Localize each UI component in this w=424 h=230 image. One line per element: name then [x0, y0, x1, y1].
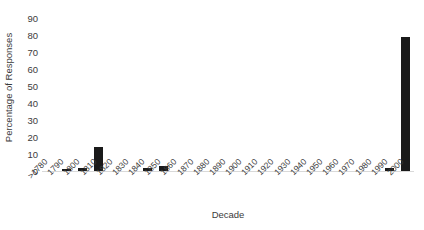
x-axis-title: Decade — [42, 209, 414, 221]
x-tick-slot: 2000 — [398, 173, 414, 209]
bar-slot — [58, 18, 74, 171]
bar-slot — [91, 18, 107, 171]
y-axis-tick-labels: 0102030405060708090 — [14, 11, 38, 171]
bar-chart-figure: Percentage of Responses 0102030405060708… — [0, 0, 424, 230]
y-tick-label: 10 — [14, 149, 38, 160]
y-tick-label: 40 — [14, 98, 38, 109]
bar-slot — [236, 18, 252, 171]
bar-slot — [317, 18, 333, 171]
bar-slot — [42, 18, 58, 171]
bar-slot — [285, 18, 301, 171]
bar-slot — [268, 18, 284, 171]
bar-slot — [333, 18, 349, 171]
bar-slot — [252, 18, 268, 171]
bar-slot — [349, 18, 365, 171]
bar-slot — [365, 18, 381, 171]
bar-slot — [188, 18, 204, 171]
bar-slot — [171, 18, 187, 171]
bar-slot — [204, 18, 220, 171]
bars-layer — [42, 18, 414, 171]
plot-area — [42, 18, 414, 171]
bar — [401, 37, 410, 171]
bar-slot — [74, 18, 90, 171]
bar-slot — [398, 18, 414, 171]
bar-slot — [301, 18, 317, 171]
y-tick-label: 80 — [14, 30, 38, 41]
y-tick-label: 50 — [14, 81, 38, 92]
x-axis-tick-labels: >178017901800181018201830184018501860187… — [42, 173, 414, 209]
bar-slot — [107, 18, 123, 171]
y-tick-label: 20 — [14, 132, 38, 143]
y-tick-label: 70 — [14, 47, 38, 58]
bar-slot — [382, 18, 398, 171]
bar-slot — [123, 18, 139, 171]
y-tick-label: 30 — [14, 115, 38, 126]
y-tick-label: 60 — [14, 64, 38, 75]
bar-slot — [220, 18, 236, 171]
bar-slot — [139, 18, 155, 171]
bar-slot — [155, 18, 171, 171]
y-tick-label: 90 — [14, 13, 38, 24]
